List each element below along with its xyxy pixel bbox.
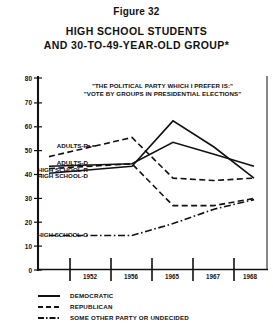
x-tick-1952: 1952 [70, 273, 110, 280]
series-label-adults-d: ADULTS-D [28, 159, 88, 166]
legend-swatch-dashed [38, 303, 60, 311]
legend-swatch-solid [38, 292, 60, 300]
y-tick-0: 0 [16, 267, 32, 274]
y-tick-70: 70 [16, 99, 32, 106]
y-tick-80: 80 [16, 75, 32, 82]
series-label-adults-r: ADULTS-R [38, 142, 88, 149]
series-label-high-school-d: HIGH SCHOOL-D [8, 172, 88, 179]
y-tick-50: 50 [16, 147, 32, 154]
x-tick-1967: 1967 [193, 273, 233, 280]
x-tick-1956: 1956 [111, 273, 151, 280]
legend-item-other: SOME OTHER PARTY OR UNDECIDED [38, 312, 268, 323]
legend-item-republican: REPUBLICAN [38, 301, 268, 312]
x-tick-1968: 1968 [230, 273, 270, 280]
y-tick-60: 60 [16, 123, 32, 130]
x-tick-1965: 1965 [152, 273, 192, 280]
y-tick-30: 30 [16, 195, 32, 202]
legend-label-republican: REPUBLICAN [70, 303, 113, 310]
legend: DEMOCRATIC REPUBLICAN SOME OTHER PARTY O… [38, 290, 268, 323]
series-label-high-school-o: HIGH SCHOOL-O [8, 231, 88, 238]
legend-label-other: SOME OTHER PARTY OR UNDECIDED [70, 314, 189, 321]
legend-label-democratic: DEMOCRATIC [70, 292, 113, 299]
y-tick-10: 10 [16, 243, 32, 250]
legend-swatch-dashdot [38, 314, 60, 322]
y-tick-20: 20 [16, 219, 32, 226]
legend-item-democratic: DEMOCRATIC [38, 290, 268, 301]
